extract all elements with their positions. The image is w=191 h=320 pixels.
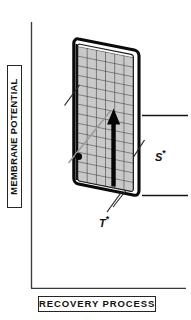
leader-t-label (107, 192, 122, 212)
label-s-star-glyph: * (162, 148, 166, 158)
x-axis-caption: RECOVERY PROCESS (38, 296, 156, 312)
y-axis-caption: MEMBRANE POTENTIAL (7, 65, 22, 208)
membrane-state-surface (74, 39, 139, 208)
y-axis-caption-wrapper: MEMBRANE POTENTIAL (7, 65, 22, 208)
label-t-star: T* (99, 214, 109, 229)
trajectory-dot (75, 153, 82, 160)
figure-canvas: S* T* RECOVERY PROCESS MEMBRANE POTENTIA… (0, 0, 191, 320)
label-s-star: S* (155, 148, 166, 163)
label-t-text: T (99, 217, 106, 229)
label-t-star-glyph: * (106, 214, 110, 224)
